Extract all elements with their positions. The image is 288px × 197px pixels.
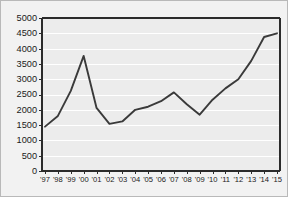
x-axis-tick-label: '00 <box>79 175 89 184</box>
y-axis-tick-label: 4500 <box>17 28 37 38</box>
y-axis-tick-label: 0 <box>32 166 37 176</box>
x-axis-tick-label: '97 <box>40 175 50 184</box>
x-axis-tick-label: '98 <box>53 175 63 184</box>
y-axis-tick-label: 1000 <box>17 135 37 145</box>
x-axis-tick-label: '15 <box>272 175 282 184</box>
x-axis-tick-label: '09 <box>195 175 205 184</box>
y-axis-tick-label: 1500 <box>17 120 37 130</box>
y-axis-tick-label: 4000 <box>17 44 37 54</box>
x-axis-tick-label: '01 <box>92 175 102 184</box>
line-chart: 0500100015002000250030003500400045005000… <box>1 1 288 197</box>
x-axis-tick-label: '08 <box>182 175 192 184</box>
chart-figure: 0500100015002000250030003500400045005000… <box>0 0 288 197</box>
x-axis-tick-labels: '97'98'99'00'01'02'03'04'05'06'07'08'09'… <box>40 175 282 184</box>
y-axis-tick-label: 3500 <box>17 59 37 69</box>
x-axis-tick-label: '99 <box>66 175 76 184</box>
x-axis-tick-label: '04 <box>130 175 140 184</box>
x-axis-tick-label: '05 <box>143 175 153 184</box>
x-axis-tick-label: '03 <box>117 175 127 184</box>
y-axis-tick-label: 2000 <box>17 105 37 115</box>
y-axis-tick-labels: 0500100015002000250030003500400045005000 <box>17 13 37 176</box>
x-axis-tick-label: '06 <box>156 175 166 184</box>
x-axis-tick-label: '10 <box>208 175 218 184</box>
y-axis-tick-label: 5000 <box>17 13 37 23</box>
x-axis-tick-label: '14 <box>259 175 269 184</box>
x-axis-tick-label: '12 <box>233 175 243 184</box>
y-axis-tick-label: 3000 <box>17 74 37 84</box>
y-axis-tick-label: 2500 <box>17 89 37 99</box>
x-axis-tick-label: '11 <box>221 175 230 184</box>
x-axis-tick-label: '13 <box>246 175 256 184</box>
y-axis-tick-label: 500 <box>22 151 37 161</box>
x-axis-tick-label: '07 <box>169 175 179 184</box>
x-axis-tick-label: '02 <box>104 175 114 184</box>
